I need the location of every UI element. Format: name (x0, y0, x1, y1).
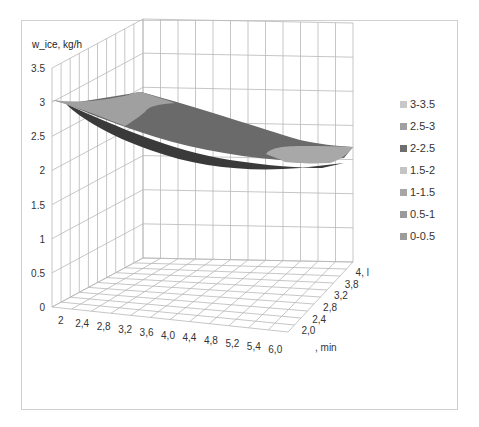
legend-label: 0.5-1 (410, 208, 435, 220)
legend-item: 2-2.5 (400, 137, 435, 159)
legend-label: 3-3.5 (410, 98, 435, 110)
x-tick-label: 5,2 (225, 338, 239, 349)
z-tick-label: 2 (39, 165, 45, 176)
chart-legend: 3-3.5 2.5-3 2-2.5 1.5-2 1-1.5 0.5-1 0-0.… (400, 93, 435, 247)
legend-swatch (400, 101, 407, 108)
x-tick-label: 4,0 (161, 330, 175, 341)
y-tick-label: 2,8 (323, 302, 337, 313)
z-tick-label: 3 (39, 97, 45, 108)
legend-label: 1.5-2 (410, 164, 435, 176)
legend-swatch (400, 211, 407, 218)
y-tick-label: 2,4 (312, 314, 326, 325)
x-tick-label: 2,8 (97, 321, 111, 332)
legend-item: 0.5-1 (400, 203, 435, 225)
legend-item: 1.5-2 (400, 159, 435, 181)
z-axis-title: w_ice, kg/h (31, 39, 82, 50)
legend-label: 2.5-3 (410, 120, 435, 132)
y-tick-label: 4, l (356, 267, 369, 278)
x-tick-label: 6,0 (268, 344, 282, 355)
legend-label: 1-1.5 (410, 186, 435, 198)
x-tick-label: 2 (58, 315, 64, 326)
legend-swatch (400, 145, 407, 152)
y-tick-label: 3,2 (334, 290, 348, 301)
legend-swatch (400, 167, 407, 174)
z-tick-label: 2.5 (31, 131, 45, 142)
x-tick-label: 3,2 (118, 324, 132, 335)
x-tick-label: 4,4 (183, 332, 197, 343)
legend-swatch (400, 123, 407, 130)
x-tick-label: 2,4 (75, 318, 89, 329)
x-tick-label: 4,8 (204, 335, 218, 346)
legend-item: 3-3.5 (400, 93, 435, 115)
y-tick-label: 3,8 (345, 279, 359, 290)
z-tick-label: 0.5 (31, 268, 45, 279)
legend-item: 0-0.5 (400, 225, 435, 247)
legend-item: 1-1.5 (400, 181, 435, 203)
x-axis-unit: , min (315, 342, 337, 353)
legend-swatch (400, 189, 407, 196)
x-tick-label: 3,6 (140, 327, 154, 338)
y-tick-label: 2,0 (301, 325, 315, 336)
legend-item: 2.5-3 (400, 115, 435, 137)
z-tick-label: 3.5 (31, 63, 45, 74)
x-tick-label: 5,4 (247, 341, 261, 352)
chart-gridlines (52, 19, 353, 332)
legend-swatch (400, 233, 407, 240)
z-tick-label: 0 (39, 302, 45, 313)
legend-label: 0-0.5 (410, 230, 435, 242)
legend-label: 2-2.5 (410, 142, 435, 154)
z-tick-label: 1.5 (31, 200, 45, 211)
z-tick-label: 1 (39, 234, 45, 245)
